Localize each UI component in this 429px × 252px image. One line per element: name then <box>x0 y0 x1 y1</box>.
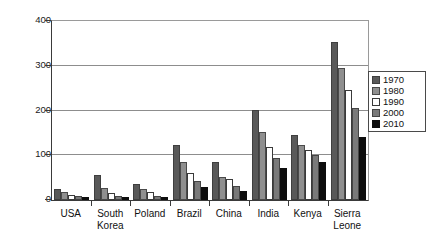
bar <box>359 137 366 200</box>
bar <box>82 197 89 200</box>
bar <box>187 173 194 200</box>
bar-group <box>250 21 290 200</box>
bar <box>154 196 161 200</box>
bar-group <box>92 21 132 200</box>
bar <box>108 193 115 200</box>
bar <box>147 192 154 200</box>
bar <box>226 179 233 200</box>
bar <box>61 192 68 200</box>
legend-swatch-icon <box>372 76 380 84</box>
figure: 0100200300400 USASouth KoreaPolandBrazil… <box>0 0 429 252</box>
legend-item-label: 1980 <box>383 86 404 96</box>
x-axis-label-kenya: Kenya <box>288 208 328 220</box>
bar <box>133 184 140 200</box>
bar <box>219 177 226 200</box>
legend-item-label: 2010 <box>383 119 404 129</box>
bar <box>266 147 273 200</box>
x-tick-mark <box>91 201 92 206</box>
bar-group <box>210 21 250 200</box>
bar <box>94 175 101 200</box>
bar <box>173 145 180 200</box>
x-axis-label-usa: USA <box>51 208 91 220</box>
x-tick-mark <box>209 201 210 206</box>
legend-swatch-icon <box>372 109 380 117</box>
bar <box>280 168 287 200</box>
legend-swatch-icon <box>372 98 380 106</box>
bar-group <box>52 21 92 200</box>
bar <box>305 150 312 200</box>
legend: 19701980199020002010 <box>368 71 426 132</box>
bar <box>75 196 82 200</box>
bar <box>240 191 247 200</box>
legend-swatch-icon <box>372 87 380 95</box>
x-axis-label-sierra: Sierra Leone <box>328 208 368 232</box>
bar <box>201 187 208 200</box>
legend-item-2000[interactable]: 2000 <box>372 107 423 118</box>
legend-item-label: 2000 <box>383 108 404 118</box>
legend-item-1990[interactable]: 1990 <box>372 96 423 107</box>
bar <box>115 196 122 200</box>
bar-group <box>329 21 369 200</box>
bar <box>345 90 352 200</box>
x-tick-mark <box>170 201 171 206</box>
bar <box>298 145 305 200</box>
x-tick-mark <box>249 201 250 206</box>
bar <box>331 42 338 200</box>
x-tick-mark <box>130 201 131 206</box>
bar <box>161 197 168 200</box>
y-axis: 0100200300400 <box>0 0 51 252</box>
bar <box>319 162 326 200</box>
bar <box>101 188 108 200</box>
bar <box>180 162 187 200</box>
legend-item-1980[interactable]: 1980 <box>372 85 423 96</box>
plot-area <box>51 20 369 201</box>
legend-item-2010[interactable]: 2010 <box>372 118 423 129</box>
bar <box>252 110 259 200</box>
bar <box>273 158 280 201</box>
legend-item-label: 1970 <box>383 75 404 85</box>
legend-item-1970[interactable]: 1970 <box>372 74 423 85</box>
x-axis-label-south: South Korea <box>91 208 131 232</box>
bar <box>68 195 75 200</box>
legend-swatch-icon <box>372 120 380 128</box>
bar <box>291 135 298 200</box>
x-axis-label-poland: Poland <box>130 208 170 220</box>
bar <box>122 197 129 200</box>
bars-layer <box>52 21 368 200</box>
bar-group <box>171 21 211 200</box>
bar <box>54 189 61 200</box>
bar <box>212 162 219 200</box>
figure-caption <box>18 243 418 252</box>
legend-item-label: 1990 <box>383 97 404 107</box>
bar <box>194 181 201 200</box>
x-axis-label-brazil: Brazil <box>170 208 210 220</box>
x-axis: USASouth KoreaPolandBrazilChinaIndiaKeny… <box>51 201 369 247</box>
bar <box>233 186 240 200</box>
bar <box>338 68 345 200</box>
x-tick-mark <box>288 201 289 206</box>
x-axis-label-india: India <box>249 208 289 220</box>
x-tick-mark <box>328 201 329 206</box>
x-axis-label-china: China <box>209 208 249 220</box>
bar <box>140 189 147 200</box>
bar <box>259 132 266 200</box>
bar-group <box>131 21 171 200</box>
bar <box>352 108 359 200</box>
bar <box>312 155 319 200</box>
bar-group <box>289 21 329 200</box>
